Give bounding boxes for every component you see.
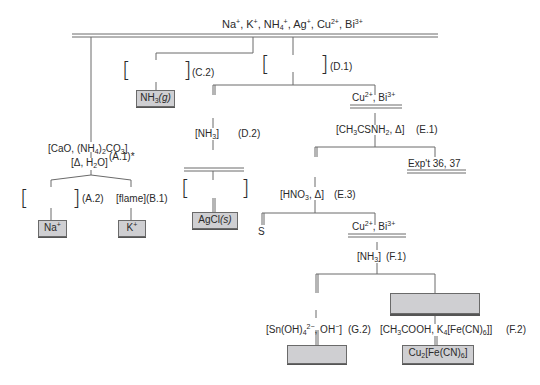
product-agcl-box: AgCl(s) [192,212,238,229]
bracket-open-d1: [ [261,53,270,75]
product-sulfur-label: S [258,226,265,238]
reagent-acetic-ferrocyanide-label: [CH3COOH, K4[Fe(CN)6]] [380,324,492,336]
unknown-bismuth-product-box [287,345,347,364]
step-e3-label: (E.3) [334,189,356,201]
top-ions-label: Na+, K+, NH4+, Ag+, Cu2+, Bi3+ [222,18,363,30]
step-f2-label: (F.2) [506,324,526,336]
reagent-heat-water-label: [Δ, H2O] [71,157,108,169]
product-k-box: K+ [118,220,146,237]
reagent-nh3-d2: [NH3] [195,128,219,140]
exp-ref-label: Exp't 36, 37 [408,158,461,170]
step-f1-label: (F.1) [386,251,406,263]
product-copper-ferrocyanide-box: Cu2[Fe(CN)6] [402,345,474,364]
bracket-close-a2: ] [72,187,81,209]
reagent-flame-label: [flame] [116,193,146,205]
step-e1-label: (E.1) [416,124,438,136]
product-nh3-box: NH3(g) [136,90,175,107]
step-a1-label: (A.1)* [109,151,135,163]
ions-cu-bi-e: Cu2+, Bi3+ [352,92,395,104]
step-a2-label: (A.2) [82,193,104,205]
bracket-close-c: ] [183,59,192,81]
step-d1-label: (D.1) [330,61,352,73]
reagent-nh3-f1: [NH3] [357,251,381,263]
flowchart-canvas: Na+, K+, NH4+, Ag+, Cu2+, Bi3+ [ ] (C.2)… [0,0,540,385]
bracket-open-a2: [ [20,187,29,209]
bracket-close-agcl: ] [241,177,250,199]
product-na-box: Na+ [38,220,67,237]
step-d2-label: (D.2) [238,128,260,140]
reagent-thioacetamide-label: [CH3CSNH2, Δ] [336,124,404,136]
unknown-bi-box [390,293,480,314]
bracket-close-d1: ] [320,53,329,75]
step-b1-label: (B.1) [146,193,168,205]
bracket-open-c: [ [122,59,131,81]
step-g2-label: (G.2) [348,324,371,336]
reagent-stannite-label: [Sn(OH)42−, OH−] [266,324,342,336]
step-c2-label: (C.2) [192,67,214,79]
ions-cu-bi-f: Cu2+, Bi3+ [352,221,395,233]
reagent-hno3-label: [HNO3, Δ] [280,189,324,201]
bracket-open-agcl: [ [181,177,190,199]
